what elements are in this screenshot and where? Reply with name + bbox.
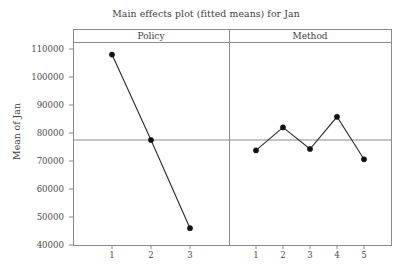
data-point (253, 148, 258, 153)
plot-canvas (0, 0, 412, 276)
chart-root: Main effects plot (fitted means) for Jan… (0, 0, 412, 276)
data-point (280, 125, 285, 130)
data-point (187, 226, 192, 231)
series-line-method (256, 117, 364, 160)
data-point (361, 157, 366, 162)
data-point (334, 114, 339, 119)
data-point (109, 52, 114, 57)
data-point (148, 137, 153, 142)
plot-frame (74, 30, 392, 246)
data-point (307, 146, 312, 151)
